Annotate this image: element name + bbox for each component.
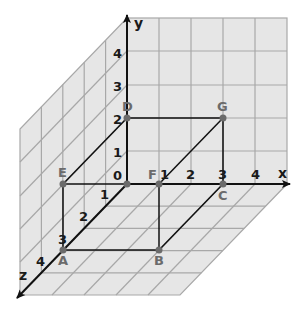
x-tick-2: 2 — [186, 167, 195, 182]
y-tick-1: 1 — [113, 145, 122, 160]
point-O — [124, 181, 131, 188]
xy-plane-grid — [127, 18, 287, 184]
label-F: F — [148, 167, 157, 182]
point-C — [220, 181, 227, 188]
point-D — [124, 115, 131, 122]
y-tick-4: 4 — [113, 46, 122, 61]
label-D: D — [122, 99, 133, 114]
z-axis-label: z — [19, 267, 27, 283]
z-tick-1: 1 — [100, 187, 109, 202]
z-tick-4: 4 — [36, 254, 45, 269]
z-tick-2: 2 — [79, 209, 88, 224]
y-tick-2: 2 — [113, 112, 122, 127]
point-G — [220, 115, 227, 122]
y-tick-3: 3 — [113, 79, 122, 94]
x-axis-label: x — [278, 165, 287, 181]
label-B: B — [154, 253, 164, 268]
coordinate-diagram: x y z 1 2 3 4 1 2 3 4 1 2 3 4 0 A B C D … — [0, 0, 305, 315]
label-E: E — [58, 165, 67, 180]
x-tick-4: 4 — [251, 167, 260, 182]
z-tick-3: 3 — [58, 232, 67, 247]
y-axis-label: y — [134, 15, 143, 31]
label-A: A — [58, 253, 68, 268]
label-G: G — [217, 99, 228, 114]
label-C: C — [218, 188, 228, 203]
point-E — [60, 181, 67, 188]
x-tick-3: 3 — [218, 167, 227, 182]
x-tick-1: 1 — [160, 167, 169, 182]
origin-label: 0 — [113, 168, 122, 183]
